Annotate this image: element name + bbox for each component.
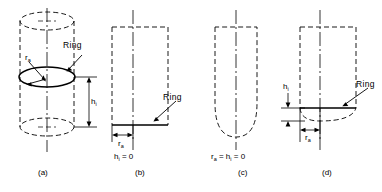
panel-d-hi-arrow-up-bottom <box>286 121 291 127</box>
panel-c <box>215 10 257 150</box>
panel-a-ring-leader <box>68 55 82 70</box>
panel-d <box>281 10 368 150</box>
panel-a-height-label: hi <box>91 97 97 106</box>
panel-d-ring-label: Ring <box>356 79 375 89</box>
panel-b-ring-leader <box>155 101 176 120</box>
panel-c-equation: ra = hi = 0 <box>211 152 245 161</box>
panel-d-height-label: hi <box>283 82 289 91</box>
panel-b-ring-label: Ring <box>163 92 182 102</box>
panel-b-caption: (b) <box>135 168 145 177</box>
panel-b-ring-arrowhead <box>153 117 159 122</box>
panel-d-ra-arrow-left <box>300 128 306 133</box>
panel-b-radius-label: ra <box>118 139 124 148</box>
panel-b-ra-arrow-left <box>112 133 118 138</box>
panel-d-hi-arrow-down-top <box>286 103 291 109</box>
panel-b <box>112 10 176 150</box>
panel-a-hi-arrow-up <box>87 77 92 83</box>
panel-a-caption: (a) <box>38 168 48 177</box>
panel-d-ra-arrow-right <box>315 128 321 133</box>
figure-canvas <box>0 0 382 192</box>
panel-d-caption: (d) <box>322 168 332 177</box>
panel-c-caption: (c) <box>238 168 247 177</box>
panel-d-rounded-bottom <box>300 108 356 121</box>
panel-d-radius-label: ra <box>305 133 311 142</box>
panel-a-radius-label: ra <box>25 53 31 62</box>
panel-b-equation: hi = 0 <box>114 152 133 161</box>
panel-a-ring-label: Ring <box>63 40 82 50</box>
panel-a-radius-arrowhead2 <box>27 82 32 86</box>
panel-a <box>19 8 97 152</box>
panel-a-hi-arrow-down <box>87 122 92 128</box>
panel-b-ra-arrow-right <box>128 133 134 138</box>
